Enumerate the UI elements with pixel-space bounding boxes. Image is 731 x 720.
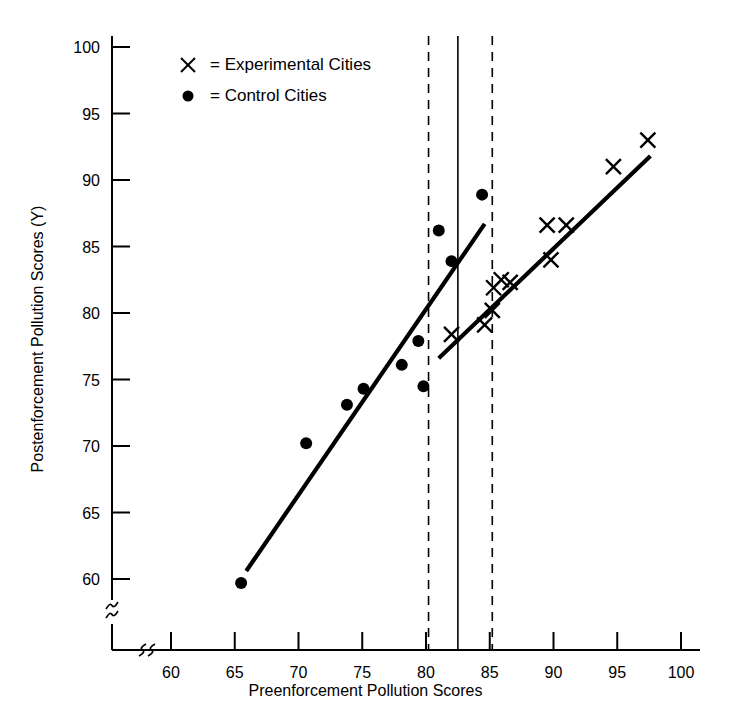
legend: = Experimental Cities= Control Cities (181, 55, 371, 105)
legend-item-experimental-cities: = Experimental Cities (181, 55, 371, 74)
y-axis-break-icon (106, 602, 118, 609)
experimental-city-point (444, 327, 459, 342)
control-city-point (341, 399, 353, 411)
x-tick-label-95: 95 (608, 664, 626, 681)
y-axis-ticks-group: 6065707580859095100 (73, 39, 130, 588)
x-tick-label-90: 90 (545, 664, 563, 681)
regression-lines-group (246, 156, 650, 571)
scatter-plot-figure: 6065707580859095100 6065707580859095100 … (0, 0, 731, 720)
y-tick-label-85: 85 (82, 239, 100, 256)
regression-line-x (439, 156, 651, 358)
y-tick-label-100: 100 (73, 39, 100, 56)
y-tick-label-70: 70 (82, 438, 100, 455)
regression-line-circle (246, 224, 484, 571)
x-axis-ticks-group: 6065707580859095100 (162, 632, 694, 681)
control-city-point (433, 225, 445, 237)
legend-item-control-cities: = Control Cities (183, 86, 327, 105)
legend-label: = Experimental Cities (210, 55, 371, 74)
x-tick-label-75: 75 (353, 664, 371, 681)
experimental-city-point (640, 133, 655, 148)
circle-marker-icon (183, 91, 194, 102)
x-tick-label-80: 80 (417, 664, 435, 681)
reference-lines-group (429, 36, 493, 650)
control-city-point (235, 577, 247, 589)
experimental-city-point (477, 317, 492, 332)
data-markers-group (235, 133, 655, 589)
control-city-point (358, 383, 370, 395)
legend-label: = Control Cities (210, 86, 327, 105)
y-tick-label-80: 80 (82, 305, 100, 322)
experimental-city-point (559, 218, 574, 233)
experimental-city-point (543, 252, 558, 267)
control-city-point (446, 255, 458, 267)
control-city-point (412, 335, 424, 347)
control-city-point (396, 359, 408, 371)
cross-marker-icon (181, 58, 195, 72)
control-city-point (476, 189, 488, 201)
y-axis-break-icon-2 (106, 611, 118, 618)
y-tick-label-95: 95 (82, 106, 100, 123)
y-tick-label-65: 65 (82, 505, 100, 522)
experimental-city-point (540, 218, 555, 233)
control-city-point (300, 437, 312, 449)
experimental-city-point (606, 159, 621, 174)
control-city-point (417, 380, 429, 392)
x-tick-label-60: 60 (162, 664, 180, 681)
y-tick-label-75: 75 (82, 372, 100, 389)
y-tick-label-60: 60 (82, 571, 100, 588)
x-tick-label-65: 65 (226, 664, 244, 681)
x-axis-title: Preenforcement Pollution Scores (0, 682, 731, 700)
x-tick-label-100: 100 (668, 664, 695, 681)
x-tick-label-70: 70 (290, 664, 308, 681)
y-axis-title: Postenforcement Pollution Scores (Y) (29, 149, 47, 529)
y-tick-label-90: 90 (82, 172, 100, 189)
plot-canvas: 6065707580859095100 6065707580859095100 … (0, 0, 731, 720)
x-tick-label-85: 85 (481, 664, 499, 681)
